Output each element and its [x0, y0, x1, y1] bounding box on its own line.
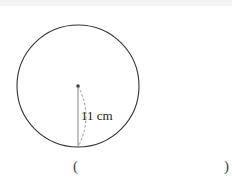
radius-label: 11 cm	[81, 108, 113, 124]
answer-open-paren: (	[73, 158, 78, 175]
answer-close-paren: )	[224, 158, 229, 175]
center-point	[76, 84, 80, 88]
circle-diagram	[0, 0, 232, 190]
